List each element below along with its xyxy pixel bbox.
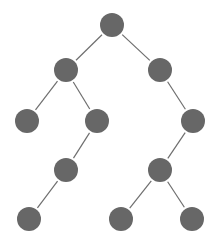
tree-edge <box>73 82 89 109</box>
nodes-layer <box>15 13 205 231</box>
tree-edge <box>168 82 186 109</box>
tree-edge <box>168 182 185 208</box>
tree-edge <box>122 35 150 61</box>
tree-node <box>54 158 78 182</box>
tree-edge <box>36 81 58 110</box>
tree-node <box>148 58 172 82</box>
tree-node <box>181 109 205 133</box>
tree-node <box>85 109 109 133</box>
tree-node <box>109 207 133 231</box>
tree-edge <box>76 35 102 60</box>
tree-edge <box>130 181 152 208</box>
tree-node <box>17 207 41 231</box>
tree-node <box>100 13 124 37</box>
tree-node <box>15 109 39 133</box>
tree-node <box>180 207 204 231</box>
tree-edge <box>73 133 89 158</box>
tree-node <box>54 58 78 82</box>
tree-node <box>148 158 172 182</box>
tree-edge <box>168 133 185 159</box>
tree-edge <box>37 181 57 208</box>
tree-diagram <box>0 0 219 244</box>
